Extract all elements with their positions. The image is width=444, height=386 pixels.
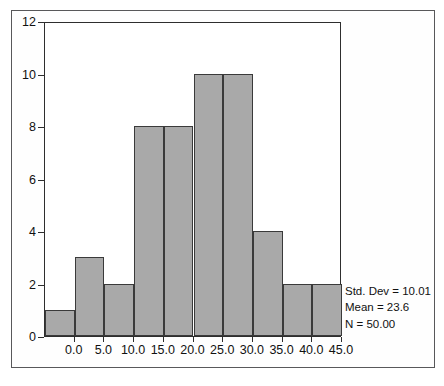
- y-axis-tick-label: 12: [2, 16, 36, 29]
- bar: [312, 284, 342, 337]
- bar: [194, 74, 224, 337]
- statistics-annotation: Std. Dev = 10.01 Mean = 23.6 N = 50.00: [345, 283, 433, 332]
- bar: [223, 74, 253, 337]
- x-axis-tick-label: 35.0: [269, 344, 293, 357]
- x-axis-tick-label: 15.0: [151, 344, 175, 357]
- x-axis-tick: [341, 337, 342, 342]
- x-axis-tick: [282, 337, 283, 342]
- y-axis-tick-label: 8: [2, 121, 36, 134]
- x-axis-tick-label: 30.0: [240, 344, 264, 357]
- x-axis-tick: [311, 337, 312, 342]
- histogram-figure: 024681012 0.05.010.015.020.025.030.035.0…: [0, 0, 444, 386]
- bar: [253, 231, 283, 336]
- bar: [283, 284, 313, 337]
- x-axis-tick: [193, 337, 194, 342]
- y-axis-tick-label: 4: [2, 226, 36, 239]
- y-axis-tick: [38, 22, 44, 23]
- y-axis: 024681012: [0, 0, 36, 386]
- y-axis-tick-label: 10: [2, 68, 36, 81]
- x-axis-tick: [163, 337, 164, 342]
- x-axis-tick-label: 25.0: [210, 344, 234, 357]
- y-axis-tick-label: 6: [2, 173, 36, 186]
- y-axis-tick-label: 0: [2, 331, 36, 344]
- y-axis-tick: [38, 285, 44, 286]
- x-axis-tick-label: 0.0: [65, 344, 82, 357]
- bar: [104, 284, 134, 337]
- n-text: N = 50.00: [345, 316, 433, 332]
- y-axis-tick: [38, 75, 44, 76]
- plot-area: [44, 22, 341, 337]
- x-axis-tick: [222, 337, 223, 342]
- bar: [134, 126, 164, 336]
- x-axis-tick: [74, 337, 75, 342]
- x-axis-tick: [252, 337, 253, 342]
- y-axis-tick: [38, 232, 44, 233]
- x-axis-tick: [133, 337, 134, 342]
- y-axis-tick: [38, 180, 44, 181]
- bar-series: [45, 23, 340, 336]
- x-axis-tick: [103, 337, 104, 342]
- x-axis-tick-label: 40.0: [299, 344, 323, 357]
- y-axis-tick-label: 2: [2, 278, 36, 291]
- bar: [45, 310, 75, 336]
- x-axis-tick-label: 10.0: [121, 344, 145, 357]
- x-axis-tick-label: 5.0: [95, 344, 112, 357]
- y-axis-tick: [38, 337, 44, 338]
- bar: [75, 257, 105, 336]
- mean-text: Mean = 23.6: [345, 299, 433, 315]
- y-axis-tick: [38, 127, 44, 128]
- bar: [164, 126, 194, 336]
- std-dev-text: Std. Dev = 10.01: [345, 283, 433, 299]
- x-axis-tick-label: 45.0: [329, 344, 353, 357]
- x-axis-tick-label: 20.0: [180, 344, 204, 357]
